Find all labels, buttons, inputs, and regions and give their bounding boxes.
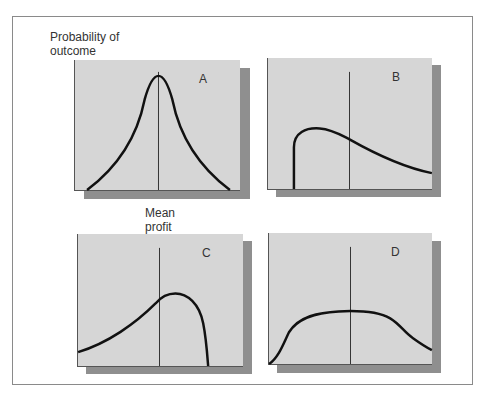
panel-b: B: [267, 58, 432, 190]
panel-a: A: [74, 60, 240, 191]
y-axis-label-line2: outcome: [50, 44, 119, 58]
x-axis-label: Mean profit: [145, 206, 175, 234]
panel-d-label: D: [391, 245, 400, 259]
panel-b-plot: [268, 58, 432, 189]
panel-a-plot: [75, 60, 240, 190]
panel-d: D: [268, 233, 432, 365]
panel-c-plot: [78, 234, 243, 366]
panel-b-label: B: [392, 70, 400, 84]
panel-c-label: C: [202, 246, 211, 260]
x-axis-label-line1: Mean: [145, 206, 175, 220]
y-axis-label: Probability of outcome: [50, 30, 119, 58]
y-axis-label-line1: Probability of: [50, 30, 119, 44]
panel-a-label: A: [199, 72, 207, 86]
distribution-curve: [78, 294, 208, 366]
distribution-curve: [294, 128, 432, 189]
panel-d-plot: [269, 233, 432, 364]
panel-c: C: [77, 234, 243, 367]
x-axis-label-line2: profit: [145, 220, 175, 234]
